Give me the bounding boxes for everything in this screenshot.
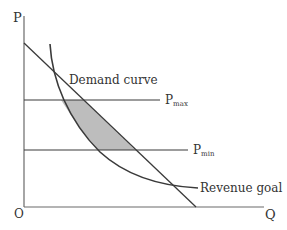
pmax-label-base: P	[165, 93, 173, 107]
shaded-region	[61, 100, 135, 150]
origin-label: O	[14, 207, 24, 221]
y-axis-label: P	[13, 10, 22, 25]
demand-curve-label: Demand curve	[69, 73, 158, 87]
pmin-label-base: P	[193, 143, 201, 157]
revenue-goal-curve	[50, 44, 198, 188]
pmax-label: Pmax	[165, 93, 188, 108]
price-revenue-diagram: P Q O Demand curve Revenue goal Pmax Pmi…	[0, 0, 287, 230]
pmin-label-sub: min	[201, 150, 215, 158]
demand-curve	[24, 43, 196, 207]
revenue-goal-label: Revenue goal	[200, 181, 282, 195]
pmax-label-sub: max	[173, 100, 188, 108]
pmin-label: Pmin	[193, 143, 215, 158]
x-axis-label: Q	[265, 207, 276, 222]
